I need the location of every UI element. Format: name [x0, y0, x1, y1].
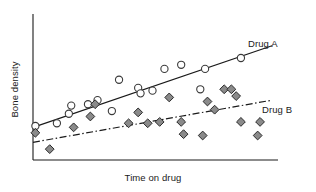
data-points	[31, 54, 264, 153]
data-point	[197, 86, 204, 93]
data-point	[203, 97, 212, 106]
y-axis-label: Bone density	[9, 55, 20, 125]
data-point	[201, 65, 208, 72]
data-point	[53, 120, 60, 127]
data-point	[108, 107, 115, 114]
data-point	[115, 76, 122, 83]
data-point	[227, 85, 236, 94]
data-point	[45, 145, 54, 154]
data-point	[178, 61, 185, 68]
data-point	[179, 130, 188, 139]
data-point	[65, 110, 72, 117]
data-point	[210, 105, 219, 114]
series-drug-b-points	[31, 85, 264, 154]
data-point	[232, 92, 241, 101]
data-point	[237, 118, 246, 127]
data-point	[237, 54, 244, 61]
data-point	[253, 131, 262, 140]
data-point	[134, 108, 143, 117]
data-point	[161, 65, 168, 72]
data-point	[177, 118, 186, 127]
data-point	[31, 128, 40, 137]
series-label-drug-a: Drug A	[248, 38, 278, 49]
chart-axes	[33, 14, 278, 160]
data-point	[143, 119, 152, 128]
plot-area	[0, 0, 316, 192]
data-point	[124, 119, 133, 128]
x-axis-label: Time on drug	[105, 172, 201, 183]
data-point	[69, 123, 78, 132]
data-point	[86, 112, 95, 121]
data-point	[165, 93, 174, 102]
bone-density-scatter-chart: Bone density Time on drug Drug A Drug B	[0, 0, 316, 192]
data-point	[68, 102, 75, 109]
data-point	[256, 118, 265, 127]
series-label-drug-b: Drug B	[262, 104, 292, 115]
data-point	[149, 87, 156, 94]
data-point	[137, 90, 144, 97]
data-point	[198, 131, 207, 140]
